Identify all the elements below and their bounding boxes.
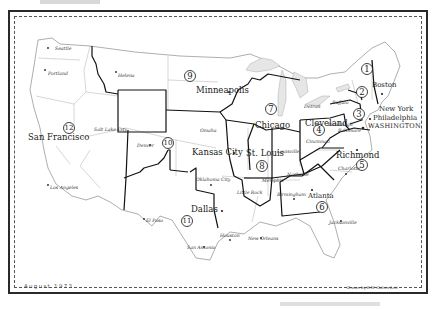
- district-3-marker: 3: [354, 109, 365, 120]
- city-cincinnati: Cincinnati: [306, 139, 330, 144]
- city-louisville: Louisville: [276, 149, 300, 154]
- city-detroit: Detroit: [303, 104, 321, 109]
- district-8-marker: 8: [257, 161, 268, 172]
- svg-text:8: 8: [259, 161, 264, 171]
- svg-text:5: 5: [359, 160, 364, 170]
- svg-text:12: 12: [65, 124, 74, 132]
- district-11-marker: 11: [182, 216, 193, 227]
- map-credit-label: Drawn by R.W. Galvin Lett: [347, 285, 398, 290]
- city-portland: Portland: [47, 71, 68, 76]
- city-charlotte: Charlotte: [338, 166, 360, 171]
- svg-text:11: 11: [183, 217, 192, 225]
- city-baltimore: Baltimore: [337, 128, 361, 133]
- district-7-marker: 7: [266, 104, 277, 115]
- federal-reserve-districts-map: 1 2 3 4 5 6 7 8 9 10 11 12 Boston New Yo…: [0, 0, 436, 309]
- svg-text:3: 3: [356, 109, 361, 119]
- district-1-marker: 1: [362, 64, 373, 75]
- district-2-marker: 2: [357, 87, 368, 98]
- map-date-label: August 1973: [24, 283, 73, 289]
- city-el-paso: El Paso: [145, 218, 163, 223]
- svg-text:7: 7: [268, 104, 273, 114]
- svg-text:10: 10: [164, 139, 173, 147]
- city-dallas: Dallas: [191, 204, 218, 214]
- city-seattle: Seattle: [55, 46, 72, 51]
- city-minneapolis: Minneapolis: [196, 85, 249, 95]
- city-omaha: Omaha: [200, 128, 217, 133]
- city-new-york: New York: [379, 105, 414, 113]
- svg-text:6: 6: [319, 202, 324, 212]
- district-9-marker: 9: [185, 71, 196, 82]
- city-richmond: Richmond: [336, 150, 380, 160]
- bottom-edge-artifact: [280, 302, 380, 306]
- city-san-antonio: San Antonio: [187, 245, 216, 250]
- city-washington: WASHINGTON: [368, 122, 421, 130]
- svg-text:9: 9: [187, 71, 192, 81]
- city-helena: Helena: [117, 73, 135, 78]
- city-philadelphia: Philadelphia: [373, 114, 417, 122]
- city-atlanta: Atlanta: [307, 192, 334, 200]
- district-6-marker: 6: [317, 202, 328, 213]
- city-san-francisco: San Francisco: [28, 132, 89, 142]
- city-new-orleans: New Orleans: [247, 236, 279, 241]
- city-memphis: Memphis: [261, 178, 284, 183]
- city-buffalo: Buffalo: [331, 100, 349, 105]
- city-jacksonville: Jacksonville: [328, 220, 357, 225]
- svg-text:1: 1: [364, 64, 369, 74]
- city-kansas-city: Kansas City: [192, 147, 243, 157]
- city-chicago: Chicago: [255, 120, 290, 130]
- city-houston: Houston: [219, 233, 240, 238]
- city-boston: Boston: [372, 81, 397, 89]
- city-denver: Denver: [136, 143, 155, 148]
- district-10-marker: 10: [163, 138, 174, 149]
- city-nashville: Nashville: [286, 172, 309, 177]
- svg-text:2: 2: [359, 87, 364, 97]
- city-little-rock: Little Rock: [236, 190, 263, 195]
